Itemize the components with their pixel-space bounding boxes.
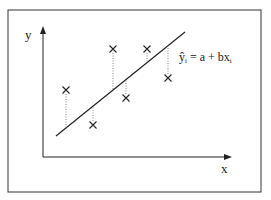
y-axis-arrow-icon xyxy=(40,26,46,34)
x-axis-arrow-icon xyxy=(224,154,232,160)
data-point-marker-icon xyxy=(123,95,130,102)
regression-equation: ŷi = a + bxi xyxy=(179,50,232,65)
regression-line xyxy=(56,32,185,136)
data-point-marker-icon xyxy=(63,87,70,94)
x-axis-label: x xyxy=(221,161,228,176)
y-axis-label: y xyxy=(25,27,32,42)
data-point-marker-icon xyxy=(90,122,97,129)
data-point-marker-icon xyxy=(144,46,151,53)
regression-diagram: y x ŷi = a + bxi xyxy=(0,0,271,200)
data-point-marker-icon xyxy=(110,46,117,53)
data-point-marker-icon xyxy=(165,75,172,82)
